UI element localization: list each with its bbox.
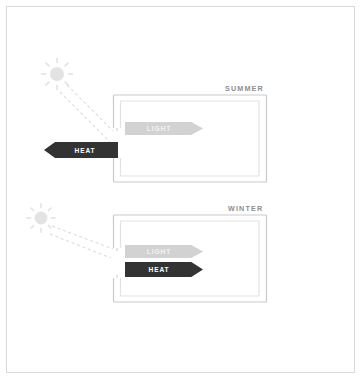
building-outline-winter: [114, 215, 267, 302]
winter-heat-flow-label: HEAT: [148, 266, 179, 273]
sun-icon: [27, 204, 55, 232]
dashed-ray-lines: [60, 85, 113, 142]
building-inner-outline-winter: [121, 221, 260, 296]
sun-icon: [42, 59, 73, 90]
diagram-canvas: SUMMER WINTER LIGHT HEAT LIGHT HEAT: [0, 0, 363, 381]
winter-light-flow-label: LIGHT: [147, 248, 181, 255]
summer-light-flow-arrow: LIGHT: [125, 122, 203, 135]
building-outline-summer: [114, 95, 267, 182]
dashed-ray-lines: [50, 226, 113, 258]
diagram-vector-layer: [0, 0, 363, 381]
summer-panel-group: [42, 59, 267, 183]
winter-light-flow-arrow: LIGHT: [125, 245, 203, 258]
summer-heat-flow-label: HEAT: [66, 147, 95, 154]
summer-light-flow-label: LIGHT: [147, 125, 181, 132]
seasonal-daylight-diagram: SUMMER WINTER LIGHT HEAT LIGHT HEAT: [0, 0, 363, 381]
summer-heat-flow-arrow: HEAT: [44, 142, 118, 158]
summer-season-label: SUMMER: [225, 84, 264, 93]
winter-season-label: WINTER: [228, 204, 263, 213]
building-inner-outline-summer: [121, 101, 260, 176]
winter-heat-flow-arrow: HEAT: [125, 262, 203, 277]
